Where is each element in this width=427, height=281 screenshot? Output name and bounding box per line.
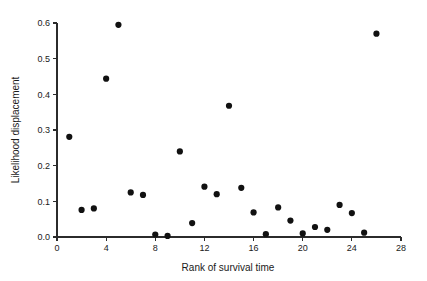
y-tick-label: 0.3 [37, 125, 50, 135]
data-point [115, 22, 121, 28]
x-tick-label: 16 [249, 243, 259, 253]
data-point [189, 220, 195, 226]
data-point [201, 184, 207, 190]
data-point [238, 185, 244, 191]
x-axis: 0481216202428 [54, 237, 406, 253]
data-point [103, 76, 109, 82]
data-point [263, 231, 269, 237]
y-tick-label: 0.2 [37, 161, 50, 171]
data-point [287, 217, 293, 223]
data-point [324, 227, 330, 233]
data-point [91, 205, 97, 211]
y-tick-label: 0.1 [37, 197, 50, 207]
data-point [361, 230, 367, 236]
data-points-layer [66, 22, 379, 239]
data-point [300, 230, 306, 236]
x-tick-label: 28 [396, 243, 406, 253]
data-point [336, 202, 342, 208]
data-point [349, 210, 355, 216]
plot-canvas: 0.00.10.20.30.40.50.6 0481216202428 Rank… [0, 0, 427, 281]
data-point [66, 134, 72, 140]
x-tick-label: 24 [347, 243, 357, 253]
scatter-plot-figure: 0.00.10.20.30.40.50.6 0481216202428 Rank… [0, 0, 427, 281]
data-point [275, 204, 281, 210]
x-axis-title: Rank of survival time [182, 262, 275, 273]
y-axis-title: Likelihood displacement [10, 76, 21, 183]
y-tick-label: 0.6 [37, 18, 50, 28]
data-point [177, 148, 183, 154]
y-tick-label: 0.5 [37, 54, 50, 64]
y-tick-label: 0.0 [37, 232, 50, 242]
data-point [128, 189, 134, 195]
x-tick-label: 0 [54, 243, 59, 253]
data-point [140, 192, 146, 198]
x-tick-label: 12 [199, 243, 209, 253]
data-point [312, 224, 318, 230]
x-tick-label: 8 [153, 243, 158, 253]
data-point [373, 31, 379, 37]
data-point [78, 207, 84, 213]
data-point [164, 233, 170, 239]
y-tick-label: 0.4 [37, 90, 50, 100]
data-point [214, 191, 220, 197]
data-point [152, 231, 158, 237]
x-tick-label: 4 [104, 243, 109, 253]
data-point [226, 103, 232, 109]
x-tick-label: 20 [298, 243, 308, 253]
data-point [250, 209, 256, 215]
y-axis: 0.00.10.20.30.40.50.6 [37, 18, 57, 242]
